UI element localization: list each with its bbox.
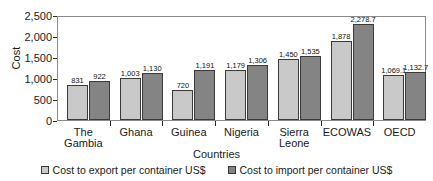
y-axis-tick-mark [53, 100, 57, 101]
bar-import: 1,306 [247, 65, 268, 120]
bar-value-label: 1,306 [248, 57, 267, 65]
x-axis-tick-mark [215, 121, 216, 126]
y-axis-tick-mark [53, 37, 57, 38]
bar-group: 831922 [58, 17, 111, 120]
bar-export: 1,179 [225, 70, 246, 120]
x-axis-tick-mark [373, 121, 374, 126]
legend-swatch-import-icon [228, 166, 236, 174]
bar-value-label: 1,191 [196, 62, 215, 70]
x-axis-tick-mark [321, 121, 322, 126]
x-axis-category-label: OECD [373, 127, 426, 138]
bar-value-label: 831 [71, 77, 84, 85]
bar-import: 922 [89, 81, 110, 120]
bar-export: 1,069.1 [383, 75, 404, 120]
bar-group: 7201,191 [163, 17, 216, 120]
y-axis-tick-label: 2,500 [10, 11, 52, 21]
bar-export: 831 [67, 85, 88, 120]
y-axis-tick-label: 0 [10, 116, 52, 126]
x-axis-category-label: Nigeria [215, 127, 268, 138]
plot-inner: 8319221,0031,1307201,1911,1791,3061,4501… [58, 17, 425, 120]
x-axis-tick-mark [162, 121, 163, 126]
plot-area: 8319221,0031,1307201,1911,1791,3061,4501… [57, 16, 426, 121]
legend-label: Cost to import per container US$ [240, 164, 393, 176]
legend-label: Cost to export per container US$ [53, 164, 206, 176]
bar-value-label: 1,130 [143, 65, 162, 73]
bar-chart: Cost 05001,0001,5002,0002,500 8319221,00… [0, 0, 433, 181]
bar-group: 1,8782,278.7 [322, 17, 375, 120]
y-axis-tick-label: 1,000 [10, 74, 52, 84]
y-axis-tick-mark [53, 58, 57, 59]
bar-import: 1,132.7 [405, 72, 426, 120]
x-axis-category-label: Sierra Leone [268, 127, 321, 149]
bar-group: 1,4501,535 [269, 17, 322, 120]
bar-value-label: 1,450 [279, 51, 298, 59]
x-axis-category-label: Guinea [162, 127, 215, 138]
bar-group: 1,0031,130 [111, 17, 164, 120]
bar-export: 1,878 [331, 41, 352, 120]
y-axis-tick-label: 2,000 [10, 32, 52, 42]
legend-swatch-export-icon [41, 166, 49, 174]
bar-export: 720 [172, 90, 193, 120]
legend-item-export[interactable]: Cost to export per container US$ [41, 164, 206, 176]
bar-import: 1,130 [142, 73, 163, 120]
bar-value-label: 1,003 [121, 70, 140, 78]
bar-import: 1,191 [194, 70, 215, 120]
bar-value-label: 1,179 [226, 62, 245, 70]
chart-legend: Cost to export per container US$Cost to … [0, 164, 433, 176]
x-axis-title: Countries [0, 148, 433, 160]
bar-value-label: 922 [93, 73, 106, 81]
bar-value-label: 720 [177, 82, 190, 90]
y-axis-tick-label: 500 [10, 95, 52, 105]
bar-import: 2,278.7 [353, 24, 374, 120]
x-axis-category-label: The Gambia [57, 127, 110, 149]
bar-export: 1,003 [120, 78, 141, 120]
bar-value-label: 1,878 [332, 33, 351, 41]
legend-item-import[interactable]: Cost to import per container US$ [228, 164, 393, 176]
y-axis-tick-mark [53, 16, 57, 17]
x-axis-category-label: Ghana [110, 127, 163, 138]
bar-import: 1,535 [300, 56, 321, 120]
y-axis-tick-label: 1,500 [10, 53, 52, 63]
bar-group: 1,069.11,132.7 [374, 17, 427, 120]
x-axis-tick-mark [268, 121, 269, 126]
x-axis-category-label: ECOWAS [321, 127, 374, 138]
y-axis-tick-mark [53, 121, 57, 122]
bar-export: 1,450 [278, 59, 299, 120]
x-axis-tick-mark [110, 121, 111, 126]
bar-value-label: 1,535 [301, 48, 320, 56]
bar-value-label: 2,278.7 [351, 16, 376, 24]
bar-group: 1,1791,306 [216, 17, 269, 120]
y-axis-tick-mark [53, 79, 57, 80]
bar-value-label: 1,132.7 [403, 64, 428, 72]
